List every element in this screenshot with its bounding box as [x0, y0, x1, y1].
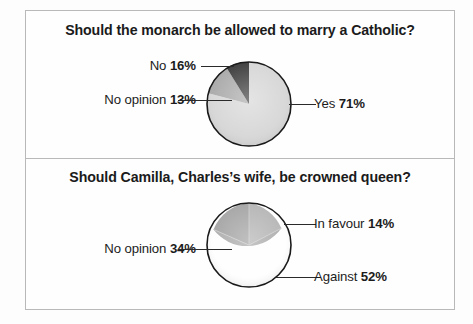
label-no: No 16% [116, 58, 196, 73]
leader-line-in-favour [284, 224, 316, 225]
label-no-opinion-text: No opinion [104, 241, 170, 256]
label-against-value: 52% [361, 269, 387, 284]
label-no-opinion-text: No opinion [104, 92, 170, 107]
leader-line-no [201, 66, 234, 67]
chart-monarch-catholic: Should the monarch be allowed to marry a… [26, 11, 454, 158]
label-against-text: Against [314, 269, 361, 284]
label-no-value: 16% [170, 58, 196, 73]
leader-line-against [276, 277, 316, 278]
chart-camilla-queen: Should Camilla, Charles’s wife, be crown… [26, 159, 454, 310]
label-no-opinion: No opinion 34% [42, 241, 196, 256]
label-no-opinion: No opinion 13% [42, 92, 196, 107]
label-yes-value: 71% [339, 96, 365, 111]
pie-chart-monarch [206, 61, 292, 147]
label-no-text: No [150, 58, 170, 73]
label-yes: Yes 71% [314, 96, 365, 111]
leader-line-no-opinion [178, 249, 232, 250]
label-yes-text: Yes [314, 96, 339, 111]
label-against: Against 52% [314, 269, 387, 284]
label-in-favour: In favour 14% [314, 216, 394, 231]
leader-line-no-opinion [178, 100, 232, 101]
chart-title-camilla: Should Camilla, Charles’s wife, be crown… [26, 169, 454, 185]
label-in-favour-value: 14% [368, 216, 394, 231]
poll-results-figure: Should the monarch be allowed to marry a… [0, 0, 473, 324]
chart-title-monarch: Should the monarch be allowed to marry a… [26, 22, 454, 38]
leader-line-yes [289, 104, 316, 105]
label-in-favour-text: In favour [314, 216, 368, 231]
figure-panel: Should the monarch be allowed to marry a… [25, 10, 455, 310]
pie-chart-camilla [206, 202, 292, 288]
